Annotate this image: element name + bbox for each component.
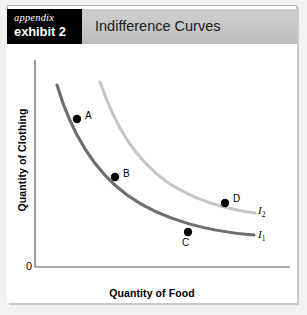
curve-I1 [57,85,254,235]
data-point-label-C: C [182,237,189,248]
data-point-D [221,199,229,207]
chart-plot-area: A B C D I2 I1 0 Quantity of Food Quantit… [7,44,297,303]
origin-label: 0 [26,260,32,272]
data-point-C [184,228,192,236]
exhibit-title: Indifference Curves [95,9,220,44]
y-axis-label: Quantity of Clothing [16,95,28,225]
data-point-label-B: B [123,168,130,179]
curve-label-I1-sub: 1 [262,234,266,243]
data-point-label-A: A [85,110,92,121]
curve-label-I1: I1 [258,228,265,243]
exhibit-kicker: appendix [14,12,82,24]
figure-root: appendix exhibit 2 Indifference Curves A… [0,0,307,315]
x-axis-label: Quantity of Food [7,287,297,299]
data-point-A [73,115,81,123]
curve-label-I2-sub: 2 [262,210,266,219]
exhibit-number: exhibit 2 [14,24,82,39]
exhibit-tag: appendix exhibit 2 [7,9,82,44]
indifference-curve-svg [7,44,297,303]
data-point-label-D: D [233,193,240,204]
data-point-B [111,173,119,181]
curve-label-I2: I2 [258,204,265,219]
